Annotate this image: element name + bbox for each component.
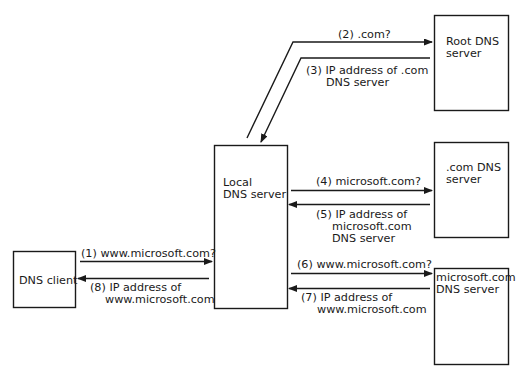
dns-client-node: DNS client [14,252,78,308]
local-dns-server-node: Local DNS server [215,146,288,309]
local-dns-server-label-line2: DNS server [223,188,286,201]
message-7: (7) IP address of www.microsoft.com [289,289,430,317]
dns-client-label: DNS client [19,274,78,287]
microsoft-dns-server-node: microsoft.com DNS server [435,269,516,365]
root-dns-server-box [435,16,509,111]
message-6: (6) www.microsoft.com? [291,258,432,274]
message-1-label: (1) www.microsoft.com? [81,247,216,260]
microsoft-dns-server-label-line2: DNS server [436,283,499,296]
message-8-label-line2: www.microsoft.com [105,293,215,306]
com-dns-server-box [435,143,509,238]
message-3: (3) IP address of .com DNS server [261,58,430,142]
local-dns-server-box [215,146,288,309]
com-dns-server-node: .com DNS server [435,143,509,238]
message-3-label-line2: DNS server [326,76,389,89]
message-2-label: (2) .com? [338,28,391,41]
message-8: (8) IP address of www.microsoft.com [78,279,215,307]
dns-resolution-diagram: DNS client Local DNS server Root DNS ser… [0,0,521,375]
message-7-label-line2: www.microsoft.com [317,303,427,316]
message-6-label: (6) www.microsoft.com? [297,258,432,271]
message-1: (1) www.microsoft.com? [80,247,216,262]
message-4: (4) microsoft.com? [291,175,432,191]
root-dns-server-node: Root DNS server [435,16,509,111]
message-5: (5) IP address of microsoft.com DNS serv… [289,205,430,246]
com-dns-server-label-line2: server [446,173,482,186]
message-5-label-line3: DNS server [332,232,395,245]
root-dns-server-label-line2: server [446,47,482,60]
message-4-label: (4) microsoft.com? [316,175,421,188]
arrow-2 [247,42,432,138]
